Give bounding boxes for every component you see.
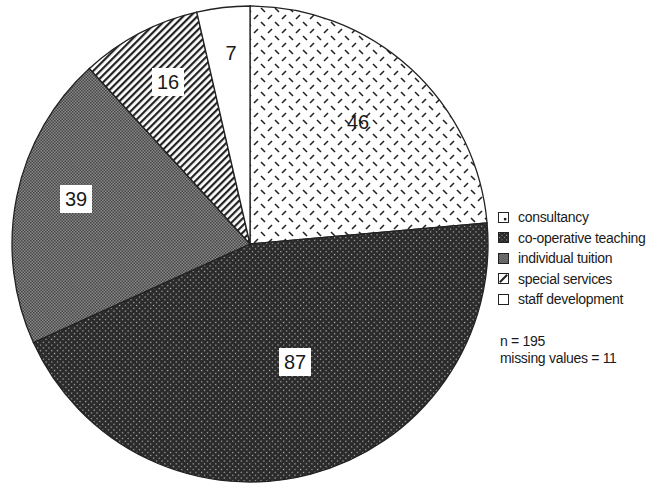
legend-label: co-operative teaching — [518, 230, 646, 246]
missing-values-note: missing values = 11 — [500, 350, 617, 367]
legend-item-individual-tuition: individual tuition — [498, 248, 646, 269]
slice-value-label: 87 — [284, 351, 306, 373]
legend: consultancy co-operative teaching indivi… — [498, 207, 646, 310]
legend-swatch-co-operative-teaching-icon — [498, 232, 509, 243]
slice-value-label: 7 — [225, 42, 236, 64]
legend-item-staff-development: staff development — [498, 289, 646, 310]
legend-label: individual tuition — [518, 250, 612, 266]
legend-swatch-individual-tuition-icon — [498, 253, 509, 264]
legend-label: consultancy — [518, 209, 589, 225]
legend-label: staff development — [518, 291, 623, 307]
slice-value-label: 16 — [157, 71, 179, 93]
legend-item-co-operative-teaching: co-operative teaching — [498, 228, 646, 249]
slice-value-label: 39 — [65, 188, 87, 210]
chart-notes: n = 195 missing values = 11 — [500, 333, 617, 367]
legend-label: special services — [518, 271, 612, 287]
legend-swatch-consultancy-icon — [498, 212, 509, 223]
sample-size-note: n = 195 — [500, 333, 617, 350]
legend-item-special-services: special services — [498, 269, 646, 290]
legend-swatch-special-services-icon — [498, 273, 509, 284]
slice-value-label: 46 — [347, 111, 369, 133]
legend-item-consultancy: consultancy — [498, 207, 646, 228]
legend-swatch-staff-development-icon — [498, 294, 509, 305]
